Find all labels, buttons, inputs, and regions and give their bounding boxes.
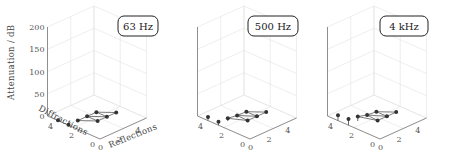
gridline [198, 73, 297, 96]
y-tick: 2 [349, 131, 354, 140]
gridline [328, 27, 381, 139]
y-tick: 4 [48, 122, 53, 131]
z-tick: 50 [34, 90, 44, 99]
data-point [365, 113, 369, 117]
gridline [328, 73, 427, 96]
y-tick: 0 [370, 140, 375, 149]
panel-0: 024024050100150200Attenuation / dBDiffra… [6, 6, 158, 152]
data-point [356, 115, 360, 119]
data-point [376, 119, 380, 123]
data-point [85, 114, 89, 118]
frequency-label: 63 Hz [123, 21, 153, 32]
connector [237, 115, 257, 116]
x-tick: 0 [98, 143, 103, 152]
data-point [56, 118, 60, 122]
gridline [48, 51, 147, 74]
data-point [67, 123, 71, 127]
gridline [198, 95, 297, 118]
panel-1: 024024500 Hz [198, 6, 299, 152]
z-tick: 100 [29, 68, 44, 77]
frequency-label: 4 kHz [389, 21, 419, 32]
z-tick: 150 [29, 45, 44, 54]
gridline [328, 95, 427, 118]
gridline [198, 51, 297, 74]
x-tick: 0 [378, 143, 383, 152]
y-axis-label: Diffractions [37, 103, 90, 137]
y-tick: 0 [90, 140, 95, 149]
y-tick: 2 [219, 131, 224, 140]
x-tick: 0 [248, 143, 253, 152]
gridline [380, 29, 427, 139]
data-point [246, 119, 250, 123]
y-tick: 0 [240, 140, 245, 149]
connector [358, 117, 378, 121]
data-point [217, 120, 221, 124]
data-point [114, 111, 118, 115]
data-point [385, 114, 389, 118]
gridline [100, 29, 147, 139]
data-point [394, 110, 398, 114]
data-point [336, 113, 340, 117]
data-point [94, 110, 98, 114]
gridline [328, 51, 427, 74]
frequency-label: 500 Hz [255, 21, 291, 32]
y-tick: 2 [69, 131, 74, 140]
data-point [374, 110, 378, 114]
data-point [105, 115, 109, 119]
x-tick: 4 [415, 126, 420, 135]
z-tick: 200 [29, 23, 44, 32]
y-tick: 4 [198, 122, 203, 131]
panel-2: 0240244 kHz [328, 6, 429, 152]
data-point [264, 110, 268, 114]
data-point [347, 117, 351, 121]
data-point [235, 113, 239, 117]
x-tick: 2 [397, 135, 402, 144]
data-point [244, 110, 248, 114]
data-point [206, 115, 210, 119]
x-tick: 4 [285, 126, 290, 135]
gridline [198, 27, 251, 139]
gridline [48, 73, 147, 96]
x-axis-label: Reflections [107, 121, 158, 150]
z-axis-label: Attenuation / dB [6, 25, 16, 101]
data-point [255, 114, 259, 118]
figure: 024024050100150200Attenuation / dBDiffra… [0, 0, 453, 153]
y-tick: 4 [328, 122, 333, 131]
data-point [96, 119, 100, 123]
gridline [250, 29, 297, 139]
data-point [226, 116, 230, 120]
x-tick: 2 [267, 135, 272, 144]
data-point [76, 119, 80, 123]
